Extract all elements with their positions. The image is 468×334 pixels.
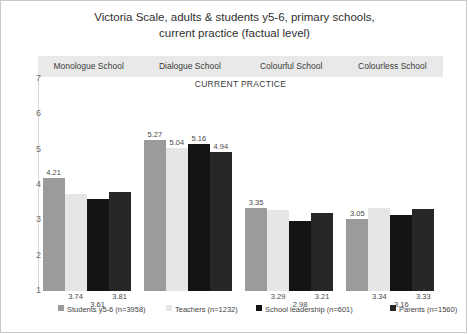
bar-value-label-4-4: 3.33	[408, 292, 438, 301]
bar-value-label-1-4: 3.81	[105, 292, 135, 301]
bar-3-1	[245, 208, 267, 291]
bar-3-4	[311, 213, 333, 291]
bar-2-3	[188, 144, 210, 291]
bar-value-label-1-1: 4.21	[39, 168, 69, 177]
chart-title: Victoria Scale, adults & students y5-6, …	[1, 9, 468, 41]
bar-1-2	[65, 194, 87, 291]
bar-1-3	[87, 199, 109, 291]
legend-swatch-icon-4	[390, 305, 396, 311]
legend-item-3[interactable]: School leadership (n=601)	[256, 304, 353, 314]
legend-swatch-icon-1	[58, 305, 64, 311]
bar-2-1	[144, 140, 166, 291]
bar-4-3	[390, 215, 412, 291]
bar-1-4	[109, 192, 131, 291]
legend-label-2: Teachers (n=1232)	[175, 305, 238, 314]
plot-area: 4.213.743.613.815.275.045.164.943.353.29…	[38, 79, 443, 291]
legend-item-1[interactable]: Students y5-6 (n=3958)	[58, 304, 146, 314]
bar-4-1	[346, 219, 368, 291]
category-header-2: Dialogue School	[139, 57, 240, 75]
chart-title-line-2: current practice (factual level)	[1, 25, 468, 41]
legend-swatch-icon-2	[166, 305, 172, 311]
chart-frame: Victoria Scale, adults & students y5-6, …	[0, 0, 467, 333]
bar-2-2	[166, 148, 188, 291]
bar-value-label-2-4: 4.94	[206, 142, 236, 151]
bar-4-2	[368, 208, 390, 291]
chart-legend: Students y5-6 (n=3958)Teachers (n=1232)S…	[38, 304, 448, 318]
bar-3-3	[289, 221, 311, 291]
chart-title-line-1: Victoria Scale, adults & students y5-6, …	[1, 9, 468, 25]
legend-label-4: Parents (n=1560)	[399, 305, 457, 314]
category-header-4: Colourless School	[342, 57, 443, 75]
legend-label-1: Students y5-6 (n=3958)	[67, 305, 146, 314]
legend-item-4[interactable]: Parents (n=1560)	[390, 304, 457, 314]
bar-value-label-3-4: 3.21	[307, 292, 337, 301]
bar-4-4	[412, 209, 434, 291]
bar-value-label-3-1: 3.35	[241, 198, 271, 207]
bar-2-4	[210, 152, 232, 291]
bar-3-2	[267, 210, 289, 291]
bar-1-1	[43, 178, 65, 291]
legend-swatch-icon-3	[256, 305, 262, 311]
category-header-1: Monologue School	[38, 57, 139, 75]
legend-label-3: School leadership (n=601)	[265, 305, 353, 314]
category-header-3: Colourful School	[241, 57, 342, 75]
legend-item-2[interactable]: Teachers (n=1232)	[166, 304, 238, 314]
